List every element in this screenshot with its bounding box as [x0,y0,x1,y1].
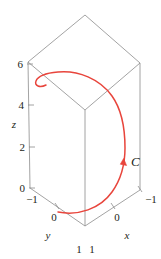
curve-c-arrowhead [120,159,126,166]
y-tick-label-neg1: −1 [26,193,38,205]
x-tick-label-0: 0 [114,211,120,223]
x-axis-label: x [124,229,130,241]
z-tick-label-2: 2 [20,141,26,153]
box-edge-left-vertical [28,62,30,188]
bounding-box-wireframe [28,15,140,226]
three-d-plot: 6 4 2 0 z −1 0 y 1 1 0 x −1 C [0,0,161,259]
x-tick-label-1: 1 [89,243,95,255]
z-axis-label: z [11,118,17,130]
curve-c-path [36,72,125,213]
y-tick-label-1: 1 [76,243,82,255]
z-tick-label-4: 4 [19,99,25,111]
x-tick-label-neg1: −1 [145,193,157,205]
box-top-face [28,15,140,110]
z-tick-label-0: 0 [20,182,26,194]
y-axis-label: y [45,229,51,241]
curve-c-label: C [131,154,140,169]
curve-c-main-stroke [36,72,125,213]
y-tick-label-0: 0 [51,211,57,223]
figure-container: 6 4 2 0 z −1 0 y 1 1 0 x −1 C [0,0,161,259]
z-tick-label-6: 6 [18,58,24,70]
